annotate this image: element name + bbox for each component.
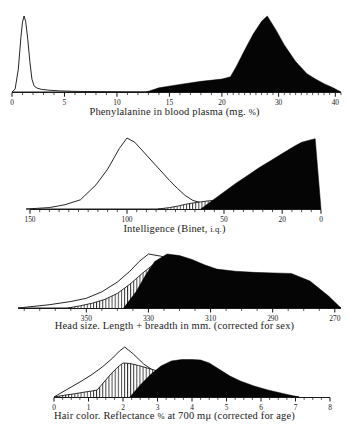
series-area-affected: [146, 16, 341, 92]
caption-text-tail: ): [222, 223, 226, 234]
series-area-affected: [124, 254, 341, 308]
caption-text-tail: at 700 mμ (corrected for age): [165, 410, 295, 421]
caption-text-main: Hair color. Reflectance: [54, 410, 157, 421]
plot-svg-hair-color: 012345678: [0, 345, 349, 415]
series-area-affected: [130, 360, 299, 398]
panel-hair-color: 012345678 Hair color. Reflectance % at 7…: [0, 345, 349, 415]
plot-svg-intelligence: 15010050200: [0, 132, 349, 227]
series-group: [54, 347, 299, 397]
figure-root: 051015203040 Phenylalanine in blood plas…: [0, 0, 349, 440]
percent-glyph: %: [157, 411, 164, 421]
caption-text-main: Head size. Length + breadth in mm. (corr…: [55, 320, 294, 331]
panel-head-size: 350330310290270 Head size. Length + brea…: [0, 250, 349, 325]
caption-intelligence: Intelligence (Binet, i.q.): [0, 223, 349, 234]
plot-svg-phenylalanine: 051015203040: [0, 4, 349, 112]
series-group: [18, 254, 341, 308]
panel-intelligence: 15010050200 Intelligence (Binet, i.q.): [0, 132, 349, 227]
panel-phenylalanine: 051015203040 Phenylalanine in blood plas…: [0, 4, 349, 112]
series-group: [26, 138, 321, 209]
caption-text-main: Phenylalanine in blood plasma (mg.: [89, 106, 248, 117]
smallcaps-iq: i.q.: [210, 224, 222, 234]
caption-phenylalanine: Phenylalanine in blood plasma (mg. %): [0, 106, 349, 117]
plot-svg-head-size: 350330310290270: [0, 250, 349, 325]
plot-head-size: 350330310290270: [0, 250, 349, 325]
plot-hair-color: 012345678: [0, 345, 349, 415]
series-area-affected: [201, 139, 321, 209]
caption-hair-color: Hair color. Reflectance % at 700 mμ (cor…: [0, 410, 349, 421]
caption-text-tail: ): [256, 106, 260, 117]
series-area-normal: [12, 16, 148, 92]
plot-intelligence: 15010050200: [0, 132, 349, 227]
caption-text-main: Intelligence (Binet,: [123, 223, 210, 234]
plot-phenylalanine: 051015203040: [0, 4, 349, 112]
series-group: [12, 16, 341, 92]
caption-head-size: Head size. Length + breadth in mm. (corr…: [0, 320, 349, 331]
percent-glyph: %: [249, 107, 256, 117]
